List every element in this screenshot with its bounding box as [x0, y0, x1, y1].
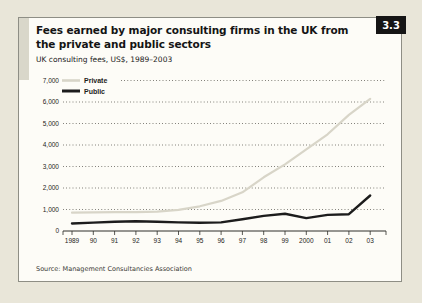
x-axis-label: 90	[90, 237, 98, 244]
series-line-private	[72, 99, 370, 213]
x-axis-label: 99	[281, 237, 289, 244]
x-axis-label: 91	[111, 237, 119, 244]
figure-title: Fees earned by major consulting firms in…	[36, 24, 348, 52]
y-axis-label: 1,000	[43, 206, 60, 213]
legend-label-public: Public	[84, 88, 105, 95]
figure-number-badge: 3.3	[376, 16, 406, 34]
header-accent-strip	[19, 18, 29, 80]
x-axis-label: 02	[345, 237, 353, 244]
y-axis-label: 3,000	[43, 163, 60, 170]
x-axis-label: 96	[217, 237, 225, 244]
x-axis-label: 97	[239, 237, 247, 244]
figure-panel: 3.3 Fees earned by major consulting firm…	[18, 17, 402, 282]
legend-label-private: Private	[84, 77, 107, 84]
x-axis-label: 01	[324, 237, 332, 244]
consulting-fees-chart: 01,0002,0003,0004,0005,0006,0007,0001989…	[33, 66, 397, 262]
x-axis-label: 1989	[65, 237, 80, 244]
x-axis-label: 93	[154, 237, 162, 244]
x-axis-label: 94	[175, 237, 183, 244]
y-axis-label: 4,000	[43, 141, 60, 148]
y-axis-label: 5,000	[43, 120, 60, 127]
figure-title-line1: Fees earned by major consulting firms in…	[36, 24, 348, 38]
y-axis-label: 7,000	[43, 77, 60, 84]
x-axis-label: 95	[196, 237, 204, 244]
figure-subtitle: UK consulting fees, US$, 1989–2003	[36, 55, 172, 64]
x-axis-label: 03	[367, 237, 375, 244]
x-axis-label: 98	[260, 237, 268, 244]
x-axis-label: 2000	[299, 237, 314, 244]
y-axis-label: 6,000	[43, 98, 60, 105]
y-axis-label: 0	[55, 227, 59, 234]
figure-title-line2: the private and public sectors	[36, 38, 348, 52]
source-note: Source: Management Consultancies Associa…	[36, 265, 192, 273]
y-axis-label: 2,000	[43, 184, 60, 191]
x-axis-label: 92	[132, 237, 140, 244]
page: { "figure": { "badge": "3.3", "title_lin…	[0, 0, 422, 303]
